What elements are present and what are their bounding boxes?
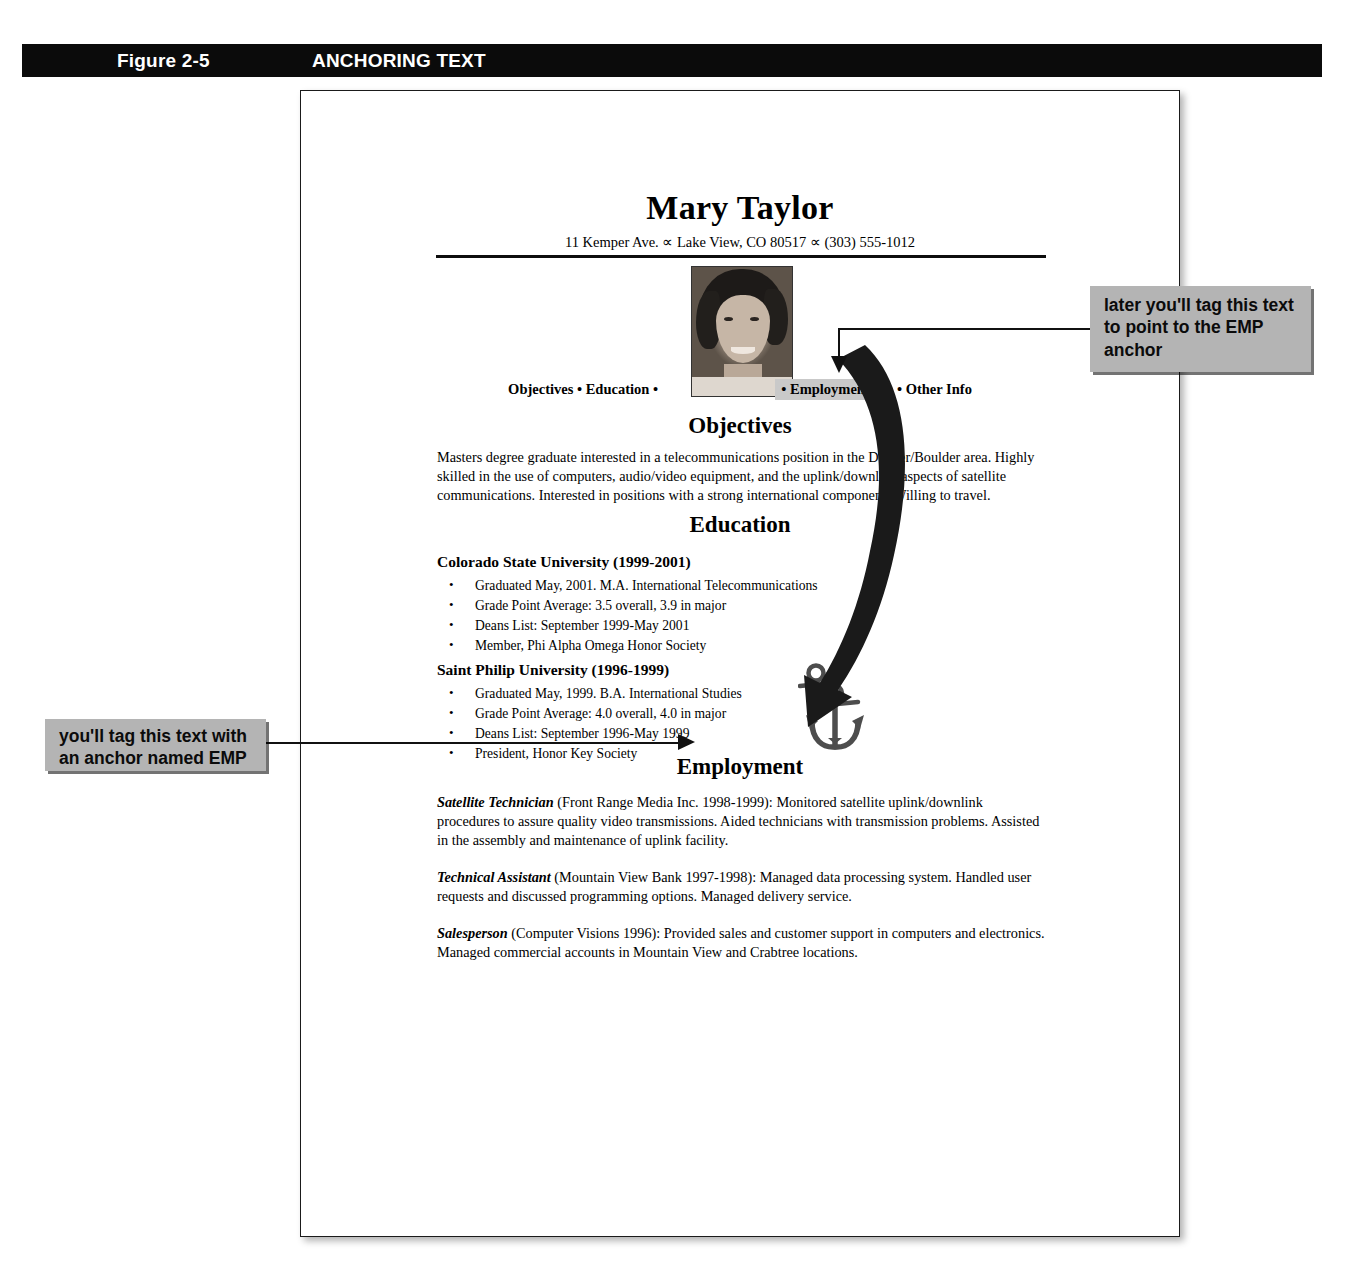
resume-contact-line: 11 Kemper Ave. ∝ Lake View, CO 80517 ∝ (… (301, 234, 1179, 251)
school-bullets-0: Graduated May, 2001. M.A. International … (437, 576, 997, 656)
callout-right-leader-horizontal (838, 328, 1090, 330)
callout-left: you'll tag this text with an anchor name… (45, 719, 266, 771)
job-title-0: Satellite Technician (437, 794, 554, 810)
anchor-icon (798, 660, 876, 750)
list-item: Graduated May, 2001. M.A. International … (437, 576, 997, 596)
photo-mouth (731, 347, 755, 354)
job-entry-2: Salesperson (Computer Visions 1996): Pro… (437, 924, 1045, 962)
document-page: Mary Taylor 11 Kemper Ave. ∝ Lake View, … (300, 90, 1180, 1237)
portrait-photo (691, 266, 793, 397)
nav-link-other-info[interactable]: • Other Info (897, 381, 972, 397)
arrowhead-right-icon (678, 734, 695, 750)
resume-name: Mary Taylor (301, 189, 1179, 227)
arrowhead-down-icon (831, 356, 847, 373)
figure-title: ANCHORING TEXT (312, 50, 486, 72)
nav-link-objectives-education[interactable]: Objectives • Education • (508, 381, 658, 397)
list-item: Member, Phi Alpha Omega Honor Society (437, 636, 997, 656)
photo-eye-right (750, 317, 759, 321)
resume-document: Mary Taylor 11 Kemper Ave. ∝ Lake View, … (301, 91, 1179, 1236)
callout-right: later you'll tag this text to point to t… (1090, 286, 1311, 372)
objectives-body: Masters degree graduate interested in a … (437, 448, 1045, 505)
figure-caption-bar: Figure 2-5 ANCHORING TEXT (22, 44, 1322, 77)
figure-number: Figure 2-5 (117, 50, 210, 72)
school-bullets-1: Graduated May, 1999. B.A. International … (437, 684, 997, 764)
list-item: Grade Point Average: 4.0 overall, 4.0 in… (437, 704, 997, 724)
job-entry-1: Technical Assistant (Mountain View Bank … (437, 868, 1045, 906)
nav-link-employment[interactable]: • Employment (775, 379, 875, 400)
photo-eye-left (724, 317, 733, 321)
section-heading-employment: Employment (301, 754, 1179, 780)
section-heading-objectives: Objectives (301, 413, 1179, 439)
job-detail-2: (Computer Visions 1996): Provided sales … (437, 925, 1045, 960)
list-item: Deans List: September 1999-May 2001 (437, 616, 997, 636)
list-item: Graduated May, 1999. B.A. International … (437, 684, 997, 704)
horizontal-rule (436, 255, 1046, 258)
job-title-1: Technical Assistant (437, 869, 551, 885)
section-heading-education: Education (301, 512, 1179, 538)
school-name-1: Saint Philip University (1996-1999) (437, 661, 669, 679)
job-entry-0: Satellite Technician (Front Range Media … (437, 793, 1045, 850)
callout-left-leader-horizontal (265, 742, 680, 744)
job-title-2: Salesperson (437, 925, 508, 941)
school-name-0: Colorado State University (1999-2001) (437, 553, 691, 571)
list-item: Grade Point Average: 3.5 overall, 3.9 in… (437, 596, 997, 616)
resume-nav-links: Objectives • Education • • Employment • … (301, 381, 1179, 398)
